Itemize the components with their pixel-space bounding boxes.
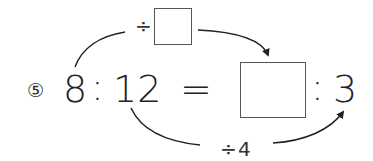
bottom-divide-sign: ÷: [220, 139, 237, 159]
right-ratio-colon: :: [311, 68, 324, 106]
top-right-arrow: [198, 30, 268, 55]
equals-sign: =: [180, 70, 212, 108]
left-ratio-colon: :: [91, 68, 104, 106]
bottom-left-curve: [131, 108, 200, 145]
right-ratio-second-term: 3: [333, 70, 357, 108]
bottom-divisor: 4: [238, 139, 251, 159]
top-left-curve: [75, 32, 125, 67]
top-divide-sign: ÷: [135, 16, 152, 36]
left-ratio-first-term: 8: [63, 70, 87, 108]
top-divisor-blank-box[interactable]: [154, 8, 192, 45]
answer-blank-box[interactable]: [240, 62, 306, 118]
problem-number: ⑤: [27, 81, 44, 100]
left-ratio-second-term: 12: [113, 70, 161, 108]
